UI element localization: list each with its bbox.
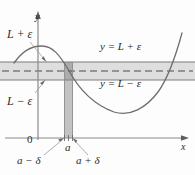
point-a-label: a xyxy=(65,142,71,153)
a-plus-delta-label: a + δ xyxy=(76,155,100,166)
origin-label: 0 xyxy=(27,134,33,145)
lower-bound-label: L − ε xyxy=(7,95,32,107)
x-axis-label: x xyxy=(181,142,185,152)
upper-line-equation-label: y = L + ε xyxy=(100,41,141,52)
x-axis-arrowhead xyxy=(181,135,189,141)
y-axis-label: y xyxy=(35,12,39,22)
limit-figure: L + ε L − ε y = L + ε y = L − ε y x 0 a … xyxy=(0,0,195,175)
a-minus-delta-leader-line xyxy=(44,140,62,155)
lower-line-equation-label: y = L − ε xyxy=(100,78,141,89)
a-plus-delta-leader-line xyxy=(75,141,88,155)
a-minus-delta-label: a − δ xyxy=(17,155,41,166)
upper-bound-label: L + ε xyxy=(7,28,32,40)
lower-bound-leader-arrowhead xyxy=(40,80,46,85)
